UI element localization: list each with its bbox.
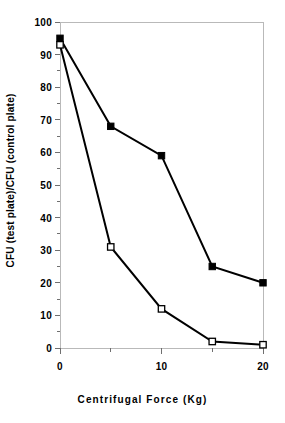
data-point-marker	[260, 342, 266, 348]
plot-area	[0, 0, 285, 423]
series-line	[60, 38, 263, 282]
data-point-marker	[57, 42, 63, 48]
data-point-marker	[209, 338, 215, 344]
data-point-marker	[108, 123, 114, 129]
data-point-marker	[209, 263, 215, 269]
data-point-marker	[108, 244, 114, 250]
data-series-group	[57, 35, 266, 348]
axis-ticks	[55, 22, 263, 354]
plot-frame	[60, 22, 263, 348]
data-point-marker	[158, 306, 164, 312]
data-point-marker	[260, 280, 266, 286]
chart-figure: CFU (test plate)/CFU (control plate) 010…	[0, 0, 285, 423]
data-point-marker	[57, 35, 63, 41]
data-point-marker	[158, 152, 164, 158]
